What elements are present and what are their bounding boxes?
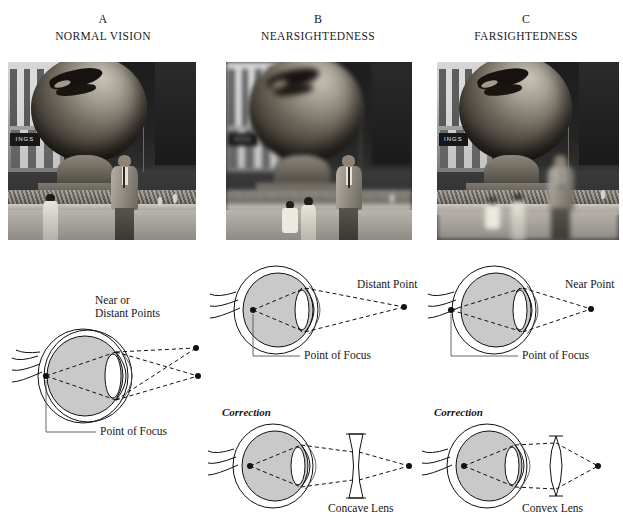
correction-diagram-farsightedness <box>0 0 623 520</box>
lens-label-convex: Convex Lens <box>522 502 583 516</box>
near-point-dot-corrected-c <box>595 463 601 469</box>
figure-root: A NORMAL VISION B NEARSIGHTEDNESS C FARS… <box>0 0 623 520</box>
focus-dot-corrected-c <box>461 463 467 469</box>
eye-corrected-farsighted <box>422 424 530 508</box>
convex-lens <box>549 436 563 496</box>
